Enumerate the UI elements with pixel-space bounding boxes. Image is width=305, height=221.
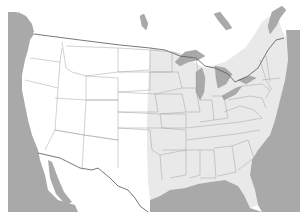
us-map: [0, 0, 305, 221]
